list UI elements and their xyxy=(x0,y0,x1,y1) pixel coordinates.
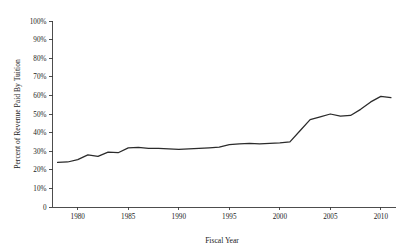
y-tick-label: 20% xyxy=(33,166,46,174)
x-tick-label: 1995 xyxy=(222,213,237,221)
y-tick-label: 70% xyxy=(33,73,46,81)
x-tick-label: 1990 xyxy=(172,213,187,221)
chart-canvas: 010%20%30%40%50%60%70%80%90%100% 1980198… xyxy=(0,0,404,251)
y-tick-label: 90% xyxy=(33,36,46,44)
chart-background xyxy=(0,0,404,251)
x-tick-label: 2010 xyxy=(374,213,389,221)
x-axis-title: Fiscal Year xyxy=(205,236,239,245)
x-tick-label: 1985 xyxy=(121,213,136,221)
line-chart-figure: 010%20%30%40%50%60%70%80%90%100% 1980198… xyxy=(0,0,404,251)
y-tick-label: 80% xyxy=(33,55,46,63)
y-tick-label: 40% xyxy=(33,129,46,137)
y-axis-title: Percent of Revenue Paid By Tuition xyxy=(13,59,22,169)
y-tick-label: 0 xyxy=(43,204,47,212)
y-tick-label: 60% xyxy=(33,92,46,100)
x-tick-label: 1980 xyxy=(71,213,86,221)
y-tick-label: 100% xyxy=(30,18,47,26)
y-tick-label: 50% xyxy=(33,111,46,119)
x-tick-label: 2005 xyxy=(323,213,338,221)
y-tick-label: 30% xyxy=(33,148,46,156)
y-tick-label: 10% xyxy=(33,185,46,193)
x-tick-label: 2000 xyxy=(273,213,288,221)
